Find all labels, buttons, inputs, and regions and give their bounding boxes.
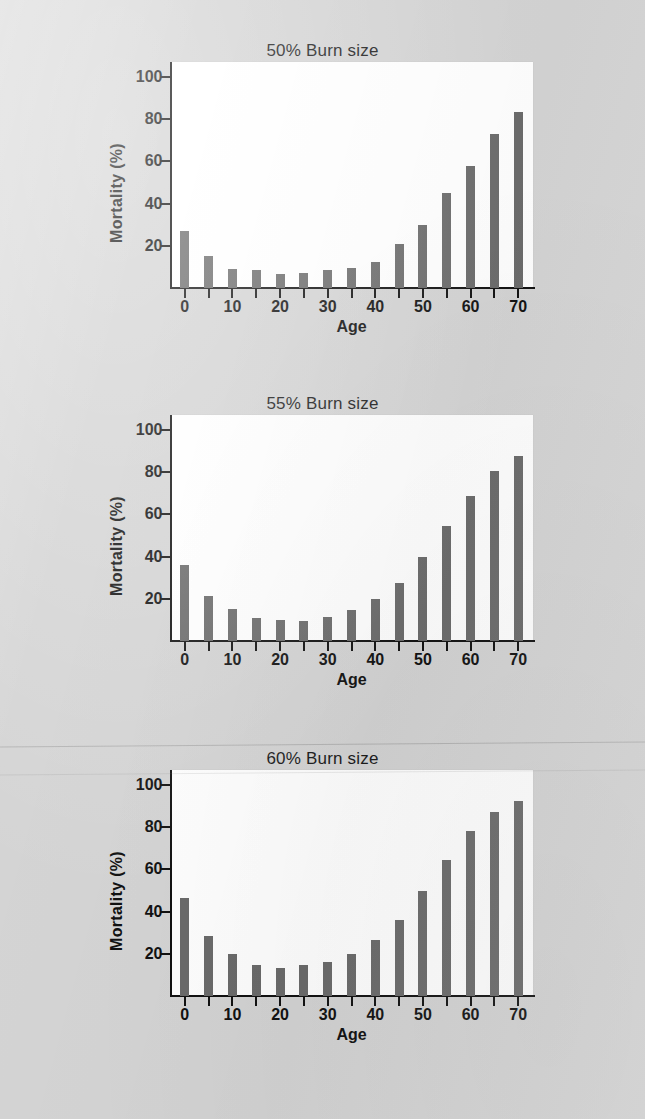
plot-area-wrapper: Mortality (%)20406080100010203040506070A… (73, 62, 573, 324)
x-tick-mark (517, 997, 519, 1006)
x-tick-label: 20 (271, 651, 289, 669)
x-tick-label: 0 (180, 1006, 189, 1024)
y-tick-label-group: 20406080100 (111, 62, 163, 294)
y-tick-mark (161, 868, 170, 870)
bar (228, 954, 237, 996)
y-tick-label: 100 (136, 68, 163, 86)
x-tick-label: 0 (180, 651, 189, 669)
x-tick-label: 70 (509, 1006, 527, 1024)
bar (323, 270, 332, 288)
x-tick-label: 10 (224, 298, 242, 316)
x-axis-label: Age (171, 671, 533, 689)
x-tick-mark (446, 289, 448, 298)
x-tick-label: 40 (366, 298, 384, 316)
bar (228, 609, 237, 641)
bar (418, 891, 427, 996)
x-tick-mark (231, 997, 233, 1006)
x-tick-mark (327, 642, 329, 651)
bar (204, 256, 213, 288)
x-tick-mark (279, 997, 281, 1006)
x-tick-mark (231, 289, 233, 298)
y-tick-label-group: 20406080100 (111, 770, 163, 1002)
y-tick-label-group: 20406080100 (111, 415, 163, 647)
y-tick-label: 100 (136, 776, 163, 794)
x-tick-mark (398, 289, 400, 298)
x-tick-mark (279, 642, 281, 651)
x-tick-label: 30 (319, 298, 337, 316)
x-tick-label: 70 (509, 298, 527, 316)
x-tick-mark (303, 997, 305, 1006)
x-tick-mark (374, 997, 376, 1006)
bar (514, 801, 523, 996)
bar (490, 134, 499, 288)
chart-title: 50% Burn size (0, 40, 645, 62)
x-tick-mark (493, 997, 495, 1006)
x-tick-mark (208, 642, 210, 651)
x-axis-label: Age (171, 1026, 533, 1044)
y-tick-mark (161, 118, 170, 120)
x-tick-mark (351, 289, 353, 298)
bar (418, 225, 427, 288)
y-tick-mark (161, 203, 170, 205)
bar (395, 583, 404, 641)
x-tick-mark (184, 289, 186, 298)
x-tick-mark (422, 289, 424, 298)
bar (276, 274, 285, 288)
bar (442, 526, 451, 641)
x-tick-mark (422, 997, 424, 1006)
bar-series (171, 62, 533, 288)
bar (323, 617, 332, 641)
x-tick-label: 60 (462, 1006, 480, 1024)
chart-title: 60% Burn size (0, 748, 645, 770)
x-tick-mark (493, 642, 495, 651)
x-tick-label: 60 (462, 298, 480, 316)
bar (180, 898, 189, 996)
bar (371, 262, 380, 288)
bar (514, 456, 523, 641)
x-tick-label: 50 (414, 298, 432, 316)
bar (395, 920, 404, 996)
x-axis-label: Age (171, 318, 533, 336)
y-tick-mark (161, 160, 170, 162)
x-tick-label-group: 010203040506070 (171, 651, 533, 673)
x-tick-label: 20 (271, 1006, 289, 1024)
chart-panel-1: 55% Burn sizeMortality (%)20406080100010… (0, 393, 645, 677)
y-tick-mark (161, 784, 170, 786)
chart-panel-2: 60% Burn sizeMortality (%)20406080100010… (0, 748, 645, 1032)
y-tick-mark (161, 429, 170, 431)
bar (371, 599, 380, 641)
x-tick-label: 60 (462, 651, 480, 669)
bar (252, 618, 261, 641)
bar (490, 812, 499, 996)
x-tick-mark (470, 997, 472, 1006)
bar (299, 965, 308, 996)
bar-series (171, 770, 533, 996)
bar (347, 268, 356, 288)
bar (347, 610, 356, 641)
y-tick-mark (161, 953, 170, 955)
x-tick-mark (255, 289, 257, 298)
x-tick-mark (231, 642, 233, 651)
x-tick-mark (208, 289, 210, 298)
bar (299, 273, 308, 288)
bar (466, 166, 475, 289)
bar (180, 565, 189, 641)
y-tick-mark (161, 513, 170, 515)
y-tick-mark (161, 471, 170, 473)
bar (204, 596, 213, 641)
x-tick-label: 40 (366, 1006, 384, 1024)
x-tick-mark (446, 997, 448, 1006)
x-tick-mark (422, 642, 424, 651)
bar (252, 965, 261, 996)
x-tick-mark (351, 642, 353, 651)
bar (490, 471, 499, 641)
bar (347, 954, 356, 996)
bar (371, 940, 380, 996)
bar (442, 193, 451, 288)
bar (252, 270, 261, 288)
bar (418, 557, 427, 641)
x-tick-mark (374, 289, 376, 298)
x-tick-mark (493, 289, 495, 298)
x-tick-mark (255, 997, 257, 1006)
plot-area-wrapper: Mortality (%)20406080100010203040506070A… (73, 770, 573, 1032)
